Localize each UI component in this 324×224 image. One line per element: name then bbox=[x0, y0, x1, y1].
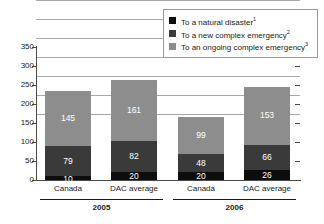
bar-segment-ongoing[interactable]: 99 bbox=[178, 117, 224, 155]
legend-item-ongoing-complex-emergency[interactable]: To an ongoing complex emergency3 bbox=[169, 40, 312, 52]
bar-value-label: 20 bbox=[129, 172, 138, 181]
table-row[interactable]: 153 66 26 bbox=[244, 87, 290, 180]
y-axis-label-250: 250 bbox=[6, 81, 34, 89]
y-axis-label-100: 100 bbox=[6, 138, 34, 146]
legend-swatch-icon bbox=[169, 43, 176, 50]
y-axis-label-50: 50 bbox=[6, 157, 34, 165]
group-label-2006: 2006 bbox=[173, 203, 296, 213]
bar-segment-natural[interactable]: 20 bbox=[111, 172, 157, 180]
legend-swatch-icon bbox=[169, 30, 176, 37]
bar-value-label: 82 bbox=[129, 152, 138, 161]
bar-value-label: 10 bbox=[63, 175, 72, 184]
y-axis-label-150: 150 bbox=[6, 119, 34, 127]
table-row[interactable]: 161 82 20 bbox=[111, 80, 157, 180]
y-axis-label-200: 200 bbox=[6, 100, 34, 108]
x-axis-line bbox=[36, 180, 301, 181]
bar-segment-new[interactable]: 48 bbox=[178, 154, 224, 172]
table-row[interactable]: 99 48 20 bbox=[178, 117, 224, 181]
bar-value-label: 99 bbox=[196, 131, 205, 140]
y-axis-label-350: 350 bbox=[6, 43, 34, 51]
bar-segment-new[interactable]: 79 bbox=[45, 146, 91, 176]
bar-segment-new[interactable]: 66 bbox=[244, 145, 290, 170]
gridline-350 bbox=[36, 0, 300, 1]
bar-segment-ongoing[interactable]: 153 bbox=[244, 87, 290, 145]
bar-segment-natural[interactable]: 10 bbox=[45, 176, 91, 180]
group-label-2005: 2005 bbox=[40, 203, 163, 213]
y-axis-label-300: 300 bbox=[6, 62, 34, 70]
bar-value-label: 20 bbox=[196, 172, 205, 181]
group-rule-2006 bbox=[173, 199, 296, 200]
bar-value-label: 26 bbox=[262, 171, 271, 180]
table-row[interactable]: 145 79 10 bbox=[45, 91, 91, 180]
bar-segment-natural[interactable]: 20 bbox=[178, 172, 224, 180]
bars-layer: 145 79 10 161 82 20 99 bbox=[36, 47, 300, 180]
y-axis-label-0: 0 bbox=[6, 176, 34, 184]
x-axis-label-dac-average-2005: DAC average bbox=[99, 184, 169, 194]
bar-segment-ongoing[interactable]: 145 bbox=[45, 91, 91, 146]
legend-item-new-complex-emergency[interactable]: To a new complex emergency2 bbox=[169, 28, 312, 40]
stacked-bar-chart: 350 300 250 200 150 100 50 0 145 79 10 1… bbox=[0, 0, 324, 224]
x-axis-label-canada-2006: Canada bbox=[166, 184, 236, 194]
group-rule-2005 bbox=[40, 199, 163, 200]
bar-value-label: 153 bbox=[260, 111, 274, 120]
bar-segment-ongoing[interactable]: 161 bbox=[111, 80, 157, 141]
bar-value-label: 48 bbox=[196, 159, 205, 168]
legend-label: To a natural disaster1 bbox=[181, 15, 256, 27]
bar-segment-natural[interactable]: 26 bbox=[244, 170, 290, 180]
bar-value-label: 161 bbox=[127, 106, 141, 115]
legend-label: To an ongoing complex emergency3 bbox=[181, 40, 308, 52]
legend-label: To a new complex emergency2 bbox=[181, 28, 290, 40]
x-axis-label-dac-average-2006: DAC average bbox=[232, 184, 302, 194]
bar-segment-new[interactable]: 82 bbox=[111, 141, 157, 172]
bar-value-label: 145 bbox=[61, 114, 75, 123]
x-axis-label-canada-2005: Canada bbox=[33, 184, 103, 194]
legend-item-natural-disaster[interactable]: To a natural disaster1 bbox=[169, 15, 312, 27]
chart-legend: To a natural disaster1 To a new complex … bbox=[163, 9, 318, 58]
bar-value-label: 66 bbox=[262, 153, 271, 162]
bar-value-label: 79 bbox=[63, 157, 72, 166]
legend-swatch-icon bbox=[169, 17, 176, 24]
